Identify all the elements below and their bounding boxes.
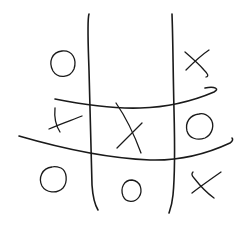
cell-r1-c2[interactable]: [95, 30, 165, 95]
o-mark: [122, 180, 141, 201]
x-mark: [192, 172, 221, 193]
cell-r3-c3[interactable]: [192, 172, 221, 198]
cell-r3-c1[interactable]: [40, 167, 66, 192]
cell-r2-c3[interactable]: [187, 114, 213, 139]
empty-cell[interactable]: [95, 30, 165, 95]
x-mark: [185, 52, 208, 77]
o-mark: [187, 114, 213, 139]
grid-line-vertical-right: [169, 14, 175, 213]
o-mark: [51, 51, 75, 76]
x-mark: [49, 116, 82, 129]
tic-tac-toe-board: [0, 0, 248, 240]
x-mark: [55, 108, 60, 132]
cell-r1-c3[interactable]: [185, 50, 209, 77]
cell-r2-c1[interactable]: [49, 108, 82, 132]
cell-r2-c2[interactable]: [116, 103, 142, 153]
cell-r3-c2[interactable]: [122, 180, 141, 201]
x-mark: [186, 50, 209, 70]
cell-r1-c1[interactable]: [51, 51, 75, 76]
o-mark: [40, 167, 66, 192]
